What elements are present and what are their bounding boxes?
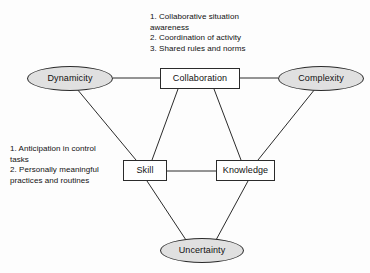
annotation-skill-notes: 1. Anticipation in control tasks 2. Pers…	[10, 144, 130, 186]
edge-skill-uncertainty	[147, 181, 186, 240]
node-label: Knowledge	[223, 166, 268, 175]
annotation-collaboration-notes: 1. Collaborative situation awareness 2. …	[150, 12, 300, 54]
node-label: Skill	[136, 166, 153, 175]
node-dynamicity[interactable]: Dynamicity	[27, 66, 113, 91]
node-label: Complexity	[298, 74, 344, 83]
node-label: Collaboration	[173, 74, 227, 83]
edge-collaboration-knowledge	[214, 89, 241, 160]
node-collaboration[interactable]: Collaboration	[160, 68, 240, 89]
node-label: Uncertainty	[179, 246, 226, 255]
node-complexity[interactable]: Complexity	[278, 66, 364, 91]
edge-knowledge-uncertainty	[216, 181, 248, 240]
edge-complexity-knowledge	[258, 89, 315, 160]
edge-collaboration-skill	[152, 89, 178, 160]
node-label: Dynamicity	[47, 74, 92, 83]
concept-diagram: Dynamicity Collaboration Complexity Skil…	[0, 0, 370, 273]
node-knowledge[interactable]: Knowledge	[216, 160, 275, 181]
node-uncertainty[interactable]: Uncertainty	[160, 238, 244, 263]
